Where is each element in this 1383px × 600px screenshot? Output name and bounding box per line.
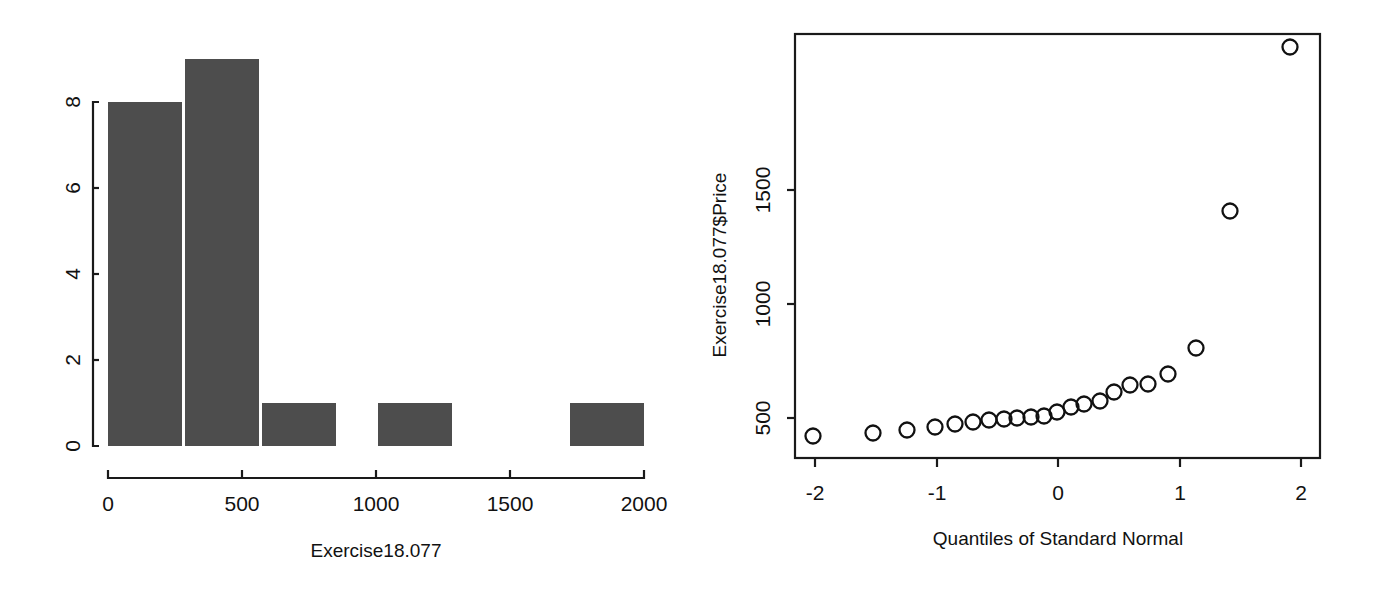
qq-plot-x-tick-labels: -2 -1 0 1 2 — [806, 481, 1307, 504]
histogram-x-axis-title: Exercise18.077 — [311, 540, 442, 561]
qq-data-point — [1123, 378, 1138, 393]
qq-data-point — [1093, 394, 1108, 409]
histogram-xtick-label: 2000 — [621, 492, 668, 515]
qq-data-point — [1107, 385, 1122, 400]
histogram-ytick-label: 8 — [61, 96, 84, 108]
histogram-x-tick-labels: 0 500 1000 1500 2000 — [102, 492, 667, 515]
qq-ytick-label: 1000 — [751, 281, 774, 328]
histogram-bar — [185, 59, 259, 446]
qq-data-point — [1283, 40, 1298, 55]
histogram-xtick-label: 1500 — [487, 492, 534, 515]
qq-data-point — [966, 415, 981, 430]
histogram-ytick-label: 0 — [61, 440, 84, 452]
histogram-bar — [108, 102, 182, 446]
qq-xtick-label: 1 — [1174, 481, 1186, 504]
histogram-x-axis — [108, 470, 644, 478]
histogram-bar — [262, 403, 336, 446]
qq-data-point — [1161, 367, 1176, 382]
qq-data-point — [948, 417, 963, 432]
qq-ytick-label: 500 — [751, 400, 774, 435]
qq-data-point — [982, 413, 997, 428]
histogram-xtick-label: 0 — [102, 492, 114, 515]
histogram-bar — [378, 403, 452, 446]
qq-xtick-label: 0 — [1052, 481, 1064, 504]
qq-plot-y-tick-labels: 500 1000 1500 — [751, 167, 774, 436]
qq-xtick-label: -2 — [806, 481, 825, 504]
histogram-xtick-label: 1000 — [353, 492, 400, 515]
qq-plot-y-axis-title: Exercise18.077$Price — [709, 173, 730, 358]
qq-plot-panel: 500 1000 1500 Exercise18.077$Price -2 -1… — [700, 0, 1383, 600]
histogram-xtick-label: 500 — [224, 492, 259, 515]
r-graphics-figure: 0 2 4 6 8 0 500 1000 1500 2000 — [0, 0, 1383, 600]
qq-data-point — [1141, 377, 1156, 392]
qq-ytick-label: 1500 — [751, 167, 774, 214]
histogram-y-tick-labels: 0 2 4 6 8 — [61, 96, 84, 452]
histogram-bars — [108, 59, 644, 446]
qq-data-point — [866, 426, 881, 441]
histogram-bar — [570, 403, 644, 446]
histogram-ytick-label: 6 — [61, 182, 84, 194]
qq-data-point — [1050, 405, 1065, 420]
qq-plot-svg: 500 1000 1500 Exercise18.077$Price -2 -1… — [700, 0, 1383, 600]
qq-plot-frame — [795, 34, 1320, 458]
qq-data-point — [806, 429, 821, 444]
histogram-y-axis — [93, 102, 99, 446]
histogram-svg: 0 2 4 6 8 0 500 1000 1500 2000 — [0, 0, 700, 600]
histogram-ytick-label: 2 — [61, 354, 84, 366]
qq-xtick-label: -1 — [928, 481, 947, 504]
qq-data-point — [900, 423, 915, 438]
qq-data-point — [1223, 204, 1238, 219]
qq-plot-points — [806, 40, 1298, 444]
histogram-panel: 0 2 4 6 8 0 500 1000 1500 2000 — [0, 0, 700, 600]
qq-plot-y-axis — [787, 190, 795, 418]
qq-data-point — [928, 420, 943, 435]
qq-plot-x-axis — [815, 458, 1301, 467]
qq-data-point — [1189, 341, 1204, 356]
histogram-ytick-label: 4 — [61, 268, 84, 280]
qq-plot-x-axis-title: Quantiles of Standard Normal — [933, 528, 1183, 549]
qq-xtick-label: 2 — [1295, 481, 1307, 504]
